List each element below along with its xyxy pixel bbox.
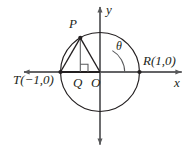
angle-theta-label: θ xyxy=(116,40,122,52)
point-T-dot xyxy=(58,70,62,74)
segment-TP xyxy=(61,38,81,72)
point-P-dot xyxy=(78,36,82,40)
right-angle-mark xyxy=(80,64,88,72)
angle-theta-arc xyxy=(112,51,124,72)
unit-circle-figure: P y R(1,0) T(−1,0) Q O x θ xyxy=(0,0,195,153)
point-T-label: T(−1,0) xyxy=(13,73,54,86)
segment-PO xyxy=(80,38,100,72)
x-axis-label: x xyxy=(174,76,180,89)
point-P-label: P xyxy=(69,17,77,30)
point-Q-label: Q xyxy=(73,76,82,89)
origin-label: O xyxy=(91,76,100,89)
y-axis-label: y xyxy=(106,3,112,16)
point-R-label: R(1,0) xyxy=(143,54,176,67)
point-R-dot xyxy=(137,70,141,74)
